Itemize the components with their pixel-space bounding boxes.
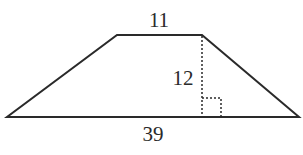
- right-angle-marker: [202, 98, 221, 117]
- diagram-svg: 11 12 39: [0, 0, 303, 155]
- trapezoid-diagram: 11 12 39: [0, 0, 303, 155]
- top-base-label: 11: [149, 8, 169, 32]
- bottom-base-label: 39: [143, 122, 164, 146]
- trapezoid-shape: [7, 35, 299, 117]
- height-label: 12: [173, 66, 194, 90]
